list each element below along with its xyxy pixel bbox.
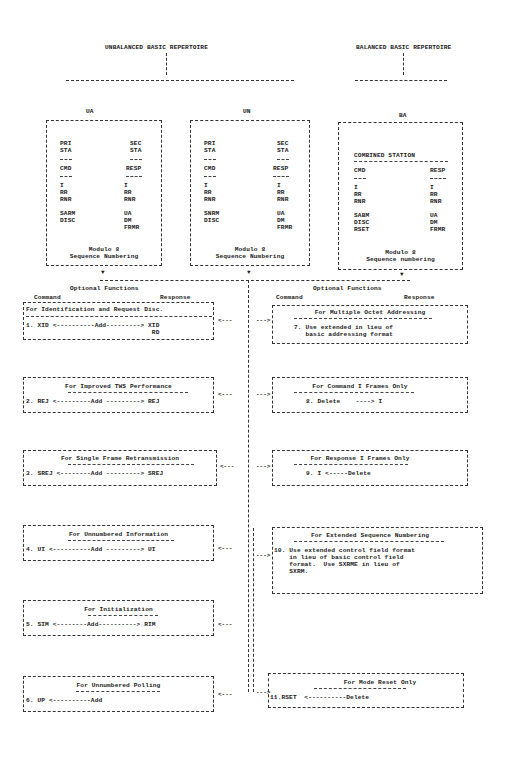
- option-9-connector: --->: [256, 464, 270, 470]
- unbalanced-stem: [166, 53, 167, 75]
- option-5-connector: <---: [218, 622, 232, 628]
- option-7-body: 7. Use extended in lieu of basic address…: [294, 324, 393, 338]
- option-8-title: For Command I Frames Only: [272, 383, 448, 390]
- optional-left-title: Optional Functions: [70, 285, 139, 292]
- option-3-body: 3. SREJ <--------Add ---------> SREJ: [26, 470, 163, 477]
- un-footer: Modulo 8 Sequence Numbering: [190, 246, 310, 260]
- option-6-body: 6. UP <----------Add: [26, 697, 102, 704]
- option-2-title: For Improved TWS Performance: [23, 383, 214, 390]
- ua-resp-label: RESP: [126, 165, 141, 172]
- balanced-stem: [403, 53, 404, 75]
- option-2-body: 2. REJ <---------Add ---------> REJ: [26, 398, 159, 405]
- un-cmd-frames: I RR RNR SNRM DISC: [204, 182, 219, 224]
- right-spine: [253, 528, 254, 692]
- ba-cmd-label: CMD: [354, 167, 365, 174]
- option-11-title: For Mode Reset Only: [300, 679, 460, 686]
- option-3-title: For Single Frame Retransmission: [23, 455, 217, 462]
- option-10-connector: --->: [256, 553, 270, 559]
- option-6-connector: <---: [218, 692, 232, 698]
- balanced-bar: [355, 80, 447, 81]
- optional-left-response: Response: [160, 294, 191, 301]
- option-5-body: 5. SIM <--------Add----------> RIM: [26, 621, 156, 628]
- option-10-title: For Extended Sequence Numbering: [272, 532, 468, 539]
- ua-cmd-label: CMD: [60, 165, 71, 172]
- option-3-connector: <---: [220, 464, 234, 470]
- option-1-body: 1. XID <----------Add---------> XID RD: [26, 322, 159, 336]
- optional-right-title: Optional Functions: [313, 285, 382, 292]
- central-spine: [248, 280, 249, 692]
- un-down-arrow: ▼: [247, 270, 251, 276]
- un-resp-label: RESP: [273, 165, 288, 172]
- ua-secondary-label: SEC STA: [130, 140, 141, 154]
- ua-primary-label: PRI STA: [60, 140, 71, 154]
- ba-cmd-frames: I RR RNR SABM DISC RSET: [354, 184, 369, 233]
- option-7-title: For Multiple Octet Addressing: [272, 309, 468, 316]
- class-label-ba: BA: [399, 112, 407, 119]
- option-7-connector: --->: [256, 318, 270, 324]
- optional-left-command: Command: [34, 294, 61, 301]
- un-secondary-label: SEC STA: [277, 140, 288, 154]
- class-label-ua: UA: [86, 108, 94, 115]
- optional-connector: [100, 280, 410, 281]
- ba-resp-label: RESP: [430, 167, 445, 174]
- optional-right-response: Response: [404, 294, 435, 301]
- ba-resp-frames: I RR RNR UA DM FRMR: [430, 184, 445, 233]
- option-9-title: For Response I Frames Only: [272, 455, 448, 462]
- option-5-title: For Initialization: [23, 606, 214, 613]
- option-8-connector: --->: [256, 392, 270, 398]
- option-4-title: For Unnumbered Information: [23, 531, 214, 538]
- ua-down-arrow: ▼: [101, 270, 105, 276]
- balanced-header: BALANCED BASIC REPERTOIRE: [356, 44, 451, 51]
- ba-down-arrow: ▼: [400, 272, 404, 278]
- option-1-connector: <---: [218, 318, 232, 324]
- optional-right-command: Command: [276, 294, 303, 301]
- ba-footer: Modulo 8 Sequence numbering: [338, 249, 463, 263]
- ua-cmd-frames: I RR RNR SARM DISC: [60, 182, 75, 224]
- ba-station-label: COMBINED STATION: [354, 152, 415, 159]
- un-resp-frames: I RR RNR UA DM FRMR: [277, 182, 292, 231]
- ua-resp-frames: I RR RNR UA DM FRMR: [124, 182, 139, 231]
- un-cmd-label: CMD: [204, 165, 215, 172]
- option-4-body: 4. UI <----------Add ---------> UI: [26, 546, 156, 553]
- option-11-body: 11.RSET <----------Delete: [270, 694, 369, 701]
- option-10-body: 10. Use extended control field format in…: [274, 547, 415, 575]
- option-8-body: 8. Delete ----> I: [306, 398, 382, 405]
- option-1-title: For Identification and Request Disc.: [26, 306, 163, 313]
- ua-footer: Modulo 8 Sequence Numbering: [46, 246, 162, 260]
- option-2-connector: <---: [218, 392, 232, 398]
- option-6-title: For Unnumbered Polling: [23, 682, 214, 689]
- un-primary-label: PRI STA: [204, 140, 215, 154]
- option-4-connector: <---: [218, 546, 232, 552]
- option-9-body: 9. I <-----Delete: [306, 470, 371, 477]
- class-label-un: UN: [243, 108, 251, 115]
- unbalanced-bar: [66, 80, 294, 81]
- unbalanced-header: UNBALANCED BASIC REPERTOIRE: [105, 44, 208, 51]
